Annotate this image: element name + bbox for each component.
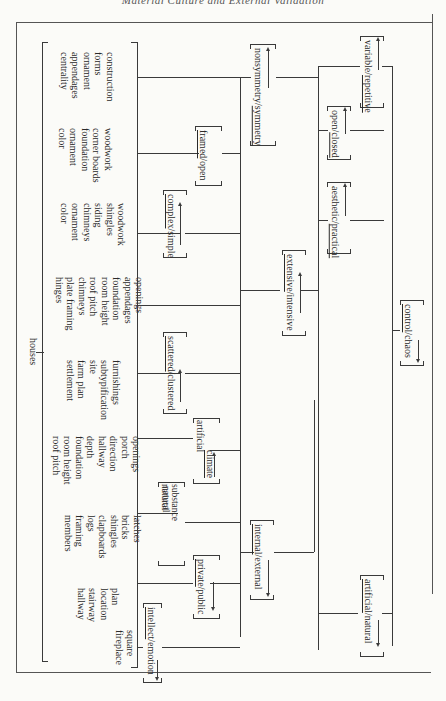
opposition-nonsymmetry-symmetry: nonsymmetry/symmetry [250,44,276,146]
opposition-private-public: private/public [193,555,220,619]
groups-bracket [137,42,138,668]
frame-right-edge [432,14,433,594]
arrow-right-icon [345,110,346,134]
spine-center [240,77,241,637]
connector-g6 [137,438,193,439]
arrow-right-icon [300,275,301,313]
opposition-scattered-clustered: scattered/clustered [163,332,187,414]
connector-artificial-natural [318,613,358,614]
connector-substance [185,522,240,523]
spine-right [318,66,319,650]
connector-control [392,330,400,331]
arrow-right-icon [268,50,269,88]
substance-natural-2: substance [170,484,180,521]
root-bracket-bottom [42,661,48,662]
arrow-left-icon [418,340,419,360]
connector-g4 [137,305,241,306]
internal-out [274,552,314,553]
open-closed-out [350,130,384,131]
group-1: constructionformsornamentappendagescentr… [58,52,116,101]
connector-intellect [162,647,240,648]
group-8: planlocationstairwayhallway [75,588,121,622]
climate-artificial: artificial [195,420,205,452]
connector-variable [318,66,360,67]
group-6: openingsporchdirectionhallwaydepthfounda… [50,436,142,485]
arrow-left-icon [378,620,379,644]
group-7: latchesbricksshinglesclapboardslogsframi… [62,515,143,558]
connector-scattered [185,373,240,374]
arrow-right-icon [214,455,215,477]
group-9: squarefireplace [113,630,136,665]
group-2: woodworkcorner boardsfoundationornamentc… [56,128,114,183]
arrow-right-icon [378,40,379,70]
arrow-left-icon [268,560,269,594]
connector-g8 [137,583,193,584]
arrow-left-icon [213,582,214,608]
groups-bracket-bottom [131,667,137,668]
root-connector [36,352,44,353]
connector-nonsym [240,77,250,78]
opposition-control-chaos: control/chaos [400,300,424,366]
groups-bracket-top [131,42,137,43]
group-4: openingsappendagesfoundationroom heightr… [53,277,145,331]
arrow-right-icon [345,186,346,216]
arrow-right-icon [180,205,181,245]
spine-far-right [392,66,393,646]
opposition-aesthetic-practical: aesthetic/practical [327,182,351,254]
frame-bottom-edge [16,672,431,673]
group-3: woodworkshinglessidingchimneysornamentco… [58,203,127,246]
opposition-framed-open: framed/open [195,126,222,186]
opposition-artificial-natural: artificial/natural [360,575,384,657]
connector-complex [185,233,240,234]
nonsym-out [276,77,318,78]
connector-extensive [240,290,280,291]
arrow-right-icon [180,372,181,402]
opposition-variable-repetitive: variable/repetitive [360,36,384,108]
opposition-open-closed: open/closed [327,106,351,160]
connector-g1 [137,77,251,78]
opposition-intellect-emotion: intellect/emotion [143,603,162,683]
connector-g2 [137,153,199,154]
opposition-internal-external: internal/external [250,520,274,600]
connector-framed [222,153,240,154]
root-bracket-top [42,42,48,43]
internal-riser [314,400,315,552]
arrow-left-icon [157,660,158,678]
substance-natural: natural [160,484,170,510]
aesthetic-out [350,220,384,221]
group-5: furnishingssubtypificationsitefarm plans… [64,360,122,420]
running-header: Material Culture and External Validation [0,0,446,6]
opposition-extensive-intensive: extensive/intensive [282,250,306,336]
opposition-complex-simple: complex/simple [163,190,187,258]
